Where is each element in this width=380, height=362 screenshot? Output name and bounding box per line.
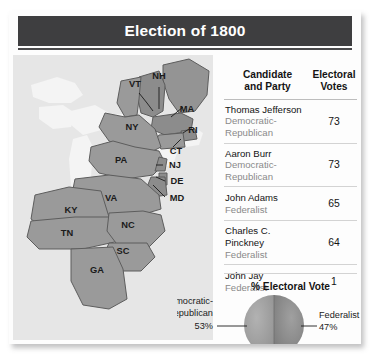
- pie-slice-federalist: [274, 295, 304, 344]
- results-table: Candidateand Party ElectoralVotes Thomas…: [224, 69, 357, 298]
- header-divider: [18, 48, 352, 50]
- candidate-name: Aaron Burr: [225, 148, 311, 160]
- state-label-ga: GA: [90, 265, 104, 275]
- candidate-name: Charles C. Pinckney: [225, 225, 311, 248]
- state-label-ct: CT: [170, 146, 183, 156]
- election-infographic-card: Election of 1800: [9, 11, 361, 344]
- pie-label-left-line2: Republican: [177, 308, 213, 318]
- pie-value-left: 53%: [195, 321, 213, 331]
- table-row: Aaron Burr Democratic-Republican 73: [224, 143, 357, 187]
- column-header-votes: ElectoralVotes: [311, 69, 357, 94]
- state-label-va: VA: [105, 193, 118, 203]
- pie-slice-democratic-republican: [244, 295, 274, 344]
- state-label-nc: NC: [121, 220, 135, 230]
- table-header-row: Candidateand Party ElectoralVotes: [224, 69, 357, 99]
- state-label-nh: NH: [152, 71, 166, 81]
- table-row: Thomas Jefferson Democratic-Republican 7…: [224, 99, 357, 143]
- state-label-nj: NJ: [169, 160, 181, 170]
- candidate-name: John Adams: [225, 192, 311, 204]
- state-label-ny: NY: [126, 122, 140, 132]
- votes-cell: 65: [311, 198, 357, 209]
- votes-cell: 73: [311, 159, 357, 170]
- pie-chart: Democratic- Republican 53% Federalist 47…: [177, 294, 361, 344]
- pie-chart-title: % Electoral Vote: [224, 281, 357, 292]
- pie-label-left-line1: Democratic-: [177, 296, 213, 306]
- candidate-party: Federalist: [225, 249, 311, 261]
- state-label-tn: TN: [61, 228, 74, 238]
- state-label-pa: PA: [115, 155, 128, 165]
- candidate-name: Thomas Jefferson: [225, 104, 311, 116]
- candidate-cell: Charles C. Pinckney Federalist: [224, 225, 311, 260]
- candidate-cell: John Adams Federalist: [224, 192, 311, 215]
- header-bar: Election of 1800: [18, 16, 352, 46]
- state-label-de: DE: [171, 176, 184, 186]
- votes-cell: 64: [311, 237, 357, 248]
- state-label-vt: VT: [129, 79, 141, 89]
- table-row: Charles C. Pinckney Federalist 64: [224, 220, 357, 264]
- candidate-party: Democratic-Republican: [225, 115, 311, 138]
- page-title: Election of 1800: [124, 22, 245, 40]
- candidate-name: John Jay: [225, 270, 311, 282]
- state-label-md: MD: [170, 193, 185, 203]
- state-label-ma: MA: [180, 104, 195, 114]
- pie-value-right: 47%: [319, 322, 337, 332]
- table-bottom-divider: [224, 273, 357, 274]
- state-label-ky: KY: [65, 205, 79, 215]
- table-row: John Adams Federalist 65: [224, 186, 357, 220]
- pie-label-right: Federalist: [319, 310, 360, 320]
- candidate-cell: Aaron Burr Democratic-Republican: [224, 148, 311, 183]
- state-label-sc: SC: [117, 246, 130, 256]
- candidate-party: Democratic-Republican: [225, 159, 311, 182]
- votes-cell: 73: [311, 116, 357, 127]
- state-label-ri: RI: [188, 125, 197, 135]
- column-header-candidate: Candidateand Party: [224, 69, 311, 94]
- candidate-cell: Thomas Jefferson Democratic-Republican: [224, 104, 311, 139]
- candidate-party: Federalist: [225, 204, 311, 216]
